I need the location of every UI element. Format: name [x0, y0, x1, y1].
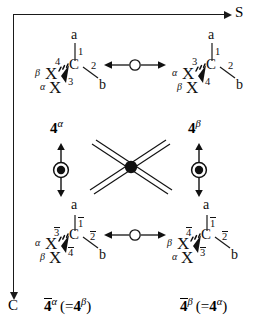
s-axis-arrowhead-icon — [224, 11, 232, 19]
compound-name-bottom-left: 4α(=4β) — [44, 296, 91, 315]
equivalence-close: ) — [86, 298, 91, 314]
compound-name-top-right: 4β — [188, 118, 201, 137]
equivalence-open: (= — [196, 298, 209, 314]
up-atom-label: a — [71, 197, 78, 212]
compound-name-top-left: 4α — [50, 118, 63, 137]
right-bond-locant: 2 — [90, 231, 95, 242]
c-axis-line — [13, 14, 14, 294]
wedge-atom-prefix: β — [176, 81, 182, 92]
right-bond-locant-group: 2 — [90, 231, 96, 242]
wedge-atom-label: X — [181, 248, 193, 267]
arrowhead-down-icon — [195, 190, 203, 197]
up-bond-locant-group: 1 — [210, 218, 216, 230]
right-atom-label: b — [236, 77, 243, 92]
open-circle-icon — [130, 60, 140, 70]
right-bond-locant: 2 — [228, 60, 233, 71]
center-atom-label: C — [69, 56, 79, 72]
molecule-bottom-right: C a b X X β α 1 2 4 3 — [160, 197, 256, 269]
wedge-bond-locant: 3 — [200, 247, 205, 258]
hash-bond-locant: 3 — [54, 227, 59, 238]
filled-dot-icon — [57, 166, 65, 174]
equivalence-close: ) — [222, 298, 227, 314]
up-bond-locant-group: 1 — [78, 218, 84, 230]
arrowhead-down-icon — [57, 190, 65, 197]
right-atom-label: b — [231, 247, 238, 262]
equivalence-numeral: 4 — [209, 298, 217, 314]
molecule-top-right: C a b X X α β 1 2 3 4 — [165, 27, 261, 99]
wedge-atom-label: X — [49, 78, 61, 97]
wedge-atom-prefix: β — [39, 251, 45, 262]
hash-bond-locant: 4 — [55, 56, 61, 67]
wedge-bond-locant-group: 4 — [68, 247, 74, 258]
s-axis-line — [13, 14, 226, 15]
figure-canvas: S C C a b X X β α 1 2 — [0, 0, 271, 332]
arrowhead-right-icon — [158, 61, 166, 69]
hash-atom-prefix: β — [166, 237, 172, 248]
hash-bond-locant-group: 4 — [186, 227, 192, 238]
compound-superscript: α — [52, 296, 58, 307]
c-operator-left — [52, 143, 70, 201]
up-bond-locant: 1 — [210, 218, 215, 229]
wedge-atom-prefix: α — [40, 81, 46, 92]
compound-superscript: α — [58, 118, 64, 129]
up-bond-locant: 1 — [78, 46, 83, 57]
hash-bond-locant-group: 3 — [54, 227, 60, 238]
c-axis-label: C — [8, 297, 18, 314]
compound-numeral: 4 — [188, 120, 196, 136]
compound-superscript: β — [196, 118, 201, 129]
compound-superscript: β — [188, 296, 193, 307]
up-bond-locant: 1 — [215, 46, 220, 57]
s-operator-bottom — [104, 227, 166, 247]
wedge-bond-locant: 4 — [205, 76, 211, 87]
equivalence-numeral: 4 — [73, 298, 81, 314]
wedge-atom-prefix: α — [172, 251, 178, 262]
arrowhead-up-icon — [57, 143, 65, 150]
open-circle-icon — [130, 230, 140, 240]
wedge-bond-locant: 3 — [68, 76, 73, 87]
up-atom-label: a — [208, 27, 215, 42]
arrowhead-right-icon — [158, 231, 166, 239]
cross-node-icon — [125, 161, 137, 173]
hash-atom-prefix: α — [172, 67, 178, 78]
hash-atom-prefix: β — [34, 67, 40, 78]
filled-dot-icon — [195, 166, 203, 174]
right-bond-locant: 2 — [91, 60, 96, 71]
compound-numeral: 4 — [50, 120, 58, 136]
compound-name-bottom-right: 4β(=4α) — [180, 296, 227, 315]
up-atom-label: a — [71, 27, 78, 42]
s-operator-top — [104, 57, 166, 77]
right-atom-label: b — [99, 247, 106, 262]
s-axis-label: S — [235, 4, 243, 21]
hash-bond-locant: 4 — [186, 227, 192, 238]
hash-bond-locant: 3 — [192, 56, 197, 67]
up-bond-locant: 1 — [78, 218, 83, 229]
right-bond-locant-group: 2 — [222, 231, 228, 242]
center-atom-label: C — [206, 56, 216, 72]
wedge-bond-locant: 4 — [68, 247, 74, 258]
wedge-atom-label: X — [186, 78, 198, 97]
right-atom-label: b — [99, 77, 106, 92]
compound-numeral: 4 — [44, 298, 52, 314]
hash-atom-prefix: α — [35, 237, 41, 248]
wedge-bond-locant-group: 3 — [200, 247, 206, 258]
wedge-atom-label: X — [49, 248, 61, 267]
c-operator-right — [190, 143, 208, 201]
arrowhead-left-icon — [104, 61, 112, 69]
arrowhead-up-icon — [195, 143, 203, 150]
right-bond-locant: 2 — [222, 231, 227, 242]
compound-numeral: 4 — [180, 298, 188, 314]
sc-operator-cross — [88, 142, 174, 202]
arrowhead-left-icon — [104, 231, 112, 239]
equivalence-open: (= — [60, 298, 73, 314]
